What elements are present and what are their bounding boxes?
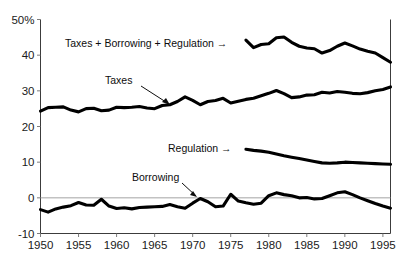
x-tick-label-1955: 1955: [66, 239, 92, 251]
y-tick-label-10: 10: [22, 156, 35, 168]
axis-frame: [41, 20, 391, 234]
x-tick-label-1960: 1960: [104, 239, 130, 251]
y-axis-tick-labels: 50%403020100-10: [11, 14, 34, 240]
x-tick-label-1975: 1975: [218, 239, 244, 251]
annotation-label-regulation: Regulation →: [168, 142, 232, 154]
x-tick-label-1980: 1980: [256, 239, 282, 251]
y-tick-label-50%: 50%: [11, 14, 34, 26]
y-tick-label-20: 20: [22, 121, 35, 133]
series-line-taxes-borrowing-regulation: [246, 37, 391, 62]
annotation-taxes: Taxes: [105, 74, 170, 105]
annotation-regulation: Regulation →: [168, 142, 232, 154]
x-tick-label-1995: 1995: [370, 239, 396, 251]
x-tick-label-1965: 1965: [142, 239, 168, 251]
annotation-label-taxes: Taxes: [105, 74, 132, 86]
x-tick-label-1950: 1950: [28, 239, 54, 251]
x-axis-tick-labels: 1950195519601965197019751980198519901995: [28, 239, 396, 251]
line-chart: 50%403020100-10 195019551960196519701975…: [0, 0, 414, 265]
series-line-regulation: [246, 149, 391, 164]
y-tick-label-0: 0: [28, 192, 34, 204]
x-tick-label-1970: 1970: [180, 239, 206, 251]
plot-frame: [41, 20, 391, 234]
series-line-taxes: [41, 87, 391, 112]
data-series-group: [41, 37, 391, 212]
x-tick-label-1985: 1985: [294, 239, 320, 251]
y-tick-label-30: 30: [22, 85, 35, 97]
series-line-borrowing: [41, 192, 391, 212]
y-tick-label-40: 40: [22, 49, 35, 61]
x-tick-label-1990: 1990: [332, 239, 358, 251]
annotation-borrowing: Borrowing: [132, 171, 197, 197]
annotation-label-borrowing: Borrowing: [132, 171, 179, 183]
annotation-label-total: Taxes + Borrowing + Regulation →: [65, 37, 227, 49]
chart-container: 50%403020100-10 195019551960196519701975…: [0, 0, 414, 265]
annotation-taxes-borrowing-regulation: Taxes + Borrowing + Regulation →: [65, 37, 227, 49]
